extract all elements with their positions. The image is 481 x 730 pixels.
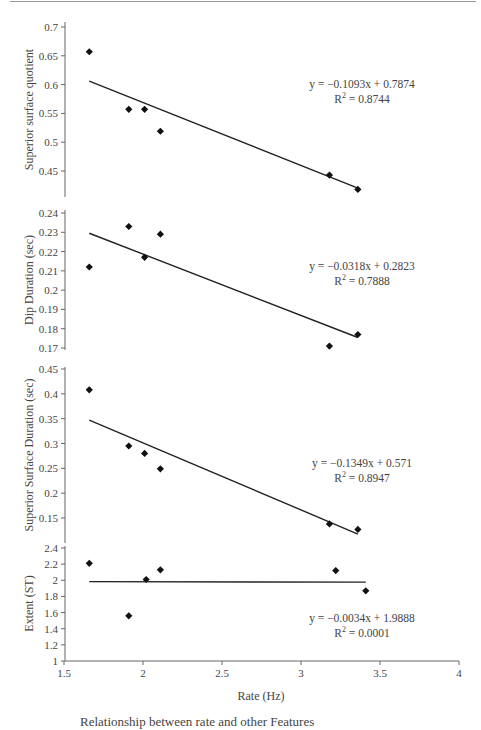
data-point-diamond-icon bbox=[86, 263, 93, 270]
x-tick-label: 2 bbox=[140, 667, 146, 679]
data-point-diamond-icon bbox=[141, 450, 148, 457]
y-tick-label: 0.18 bbox=[39, 323, 59, 335]
data-point-diamond-icon bbox=[141, 106, 148, 113]
data-point-diamond-icon bbox=[157, 128, 164, 135]
x-tick-label: 3 bbox=[298, 667, 304, 679]
data-point-diamond-icon bbox=[157, 566, 164, 573]
chart-panel-3: 0.150.20.250.30.350.40.45Superior Surfac… bbox=[22, 363, 412, 543]
chart-panel-2: 0.170.180.190.20.210.220.230.24Dip Durat… bbox=[22, 207, 415, 354]
data-point-diamond-icon bbox=[125, 106, 132, 113]
figure-caption: Relationship between rate and other Feat… bbox=[80, 714, 314, 730]
x-tick-label: 4 bbox=[456, 667, 462, 679]
trendline-equation: y = −0.1093x + 0.7874 bbox=[309, 78, 415, 91]
y-axis-title: Dip Duration (sec) bbox=[22, 235, 36, 325]
y-tick-label: 0.19 bbox=[39, 303, 59, 315]
r-squared-label: R2 = 0.8744 bbox=[334, 91, 390, 105]
data-point-diamond-icon bbox=[86, 386, 93, 393]
data-point-diamond-icon bbox=[125, 612, 132, 619]
data-point-diamond-icon bbox=[86, 560, 93, 567]
data-point-diamond-icon bbox=[332, 567, 339, 574]
y-tick-label: 0.45 bbox=[39, 363, 59, 375]
y-tick-label: 2.4 bbox=[44, 542, 58, 554]
y-axis-title: Superior surface quotient bbox=[22, 48, 36, 170]
y-tick-label: 1.2 bbox=[44, 639, 58, 651]
y-tick-label: 1.8 bbox=[44, 590, 58, 602]
y-tick-label: 0.35 bbox=[39, 413, 59, 425]
data-point-diamond-icon bbox=[326, 342, 333, 349]
y-tick-label: 0.22 bbox=[39, 246, 58, 258]
y-tick-label: 2.2 bbox=[44, 558, 58, 570]
y-tick-label: 0.2 bbox=[44, 284, 58, 296]
x-tick-label: 3.5 bbox=[373, 667, 387, 679]
y-tick-label: 0.24 bbox=[39, 207, 59, 219]
trendline bbox=[89, 81, 358, 188]
x-axis-title: Rate (Hz) bbox=[238, 689, 285, 703]
data-point-diamond-icon bbox=[125, 442, 132, 449]
y-tick-label: 0.21 bbox=[39, 265, 58, 277]
y-tick-label: 2 bbox=[53, 574, 59, 586]
x-tick-label: 1.5 bbox=[57, 667, 71, 679]
trendline bbox=[89, 233, 358, 337]
y-tick-label: 1.4 bbox=[44, 623, 58, 635]
trendline-equation: y = −0.0034x + 1.9888 bbox=[309, 612, 415, 625]
r-squared-label: R2 = 0.8947 bbox=[334, 470, 390, 484]
chart-panel-1: 0.450.50.550.60.650.7Superior surface qu… bbox=[22, 21, 415, 197]
data-point-diamond-icon bbox=[362, 587, 369, 594]
x-tick-label: 2.5 bbox=[215, 667, 229, 679]
data-point-diamond-icon bbox=[86, 48, 93, 55]
data-point-diamond-icon bbox=[141, 254, 148, 261]
trendline-equation: y = −0.1349x + 0.571 bbox=[312, 457, 412, 470]
y-tick-label: 0.3 bbox=[44, 438, 58, 450]
y-tick-label: 1 bbox=[53, 655, 59, 667]
y-axis-title: Superior Surface Duration (sec) bbox=[22, 379, 36, 532]
trendline bbox=[89, 420, 358, 534]
y-tick-label: 0.55 bbox=[39, 107, 59, 119]
data-point-diamond-icon bbox=[354, 526, 361, 533]
data-point-diamond-icon bbox=[157, 465, 164, 472]
y-tick-label: 0.25 bbox=[39, 462, 59, 474]
chart-panels: 0.450.50.550.60.650.7Superior surface qu… bbox=[22, 21, 415, 667]
data-point-diamond-icon bbox=[157, 231, 164, 238]
y-tick-label: 0.5 bbox=[44, 136, 58, 148]
y-tick-label: 0.15 bbox=[39, 512, 59, 524]
y-tick-label: 0.23 bbox=[39, 226, 59, 238]
y-tick-label: 1.6 bbox=[44, 607, 58, 619]
data-point-diamond-icon bbox=[125, 223, 132, 230]
r-squared-label: R2 = 0.0001 bbox=[334, 625, 390, 639]
y-tick-label: 0.6 bbox=[44, 79, 58, 91]
y-tick-label: 0.2 bbox=[44, 487, 58, 499]
r-squared-label: R2 = 0.7888 bbox=[334, 273, 390, 287]
trendline-equation: y = −0.0318x + 0.2823 bbox=[309, 260, 415, 273]
y-tick-label: 0.65 bbox=[39, 50, 59, 62]
y-tick-label: 0.7 bbox=[44, 21, 58, 33]
y-tick-label: 0.4 bbox=[44, 388, 58, 400]
y-tick-label: 0.45 bbox=[39, 165, 59, 177]
chart-panel-4: 11.21.41.61.822.22.4Extent (ST)y = −0.00… bbox=[22, 542, 415, 667]
y-tick-label: 0.17 bbox=[39, 342, 59, 354]
x-axis: 1.522.533.54 bbox=[57, 661, 462, 679]
y-axis-title: Extent (ST) bbox=[22, 575, 36, 631]
